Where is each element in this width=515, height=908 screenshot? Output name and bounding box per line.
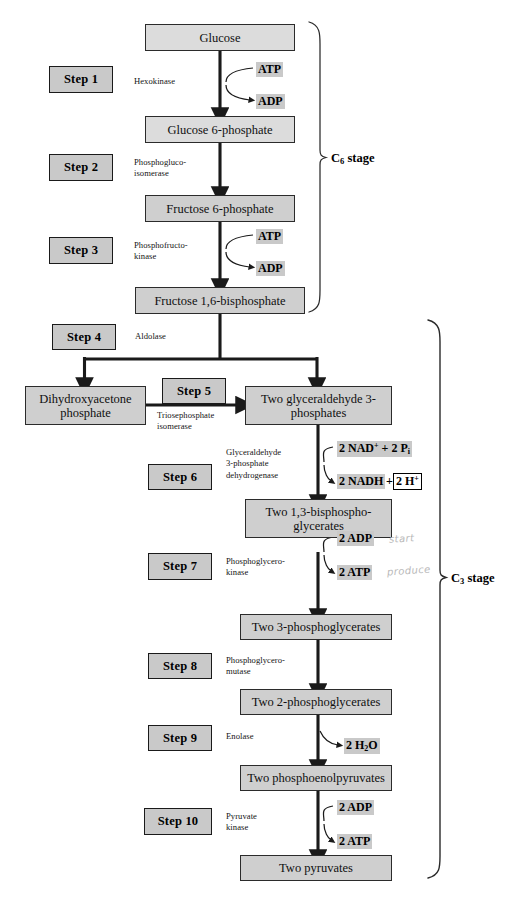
cofactor-proton-charge: + (414, 474, 419, 483)
enzyme-label-enolase: Enolase (226, 731, 254, 742)
cofactor-pi-text: + 2 P (379, 441, 408, 455)
cofactor-adp-step7: 2 ADP (337, 531, 374, 546)
step-label: Step 3 (64, 243, 98, 258)
enzyme-label-aldolase: Aldolase (135, 331, 166, 342)
metabolite-box-pyruvate: Two pyruvates (240, 855, 392, 881)
step-box-3[interactable]: Step 3 (49, 237, 113, 264)
metabolite-box-3-phosphoglycerate: Two 3-phosphoglycerates (240, 614, 392, 640)
handwritten-annotation-start: start (389, 532, 415, 545)
step-box-10[interactable]: Step 10 (144, 808, 212, 835)
enzyme-label-phosphofructokinase: Phosphofructo- kinase (134, 240, 188, 263)
step-box-4[interactable]: Step 4 (52, 324, 116, 350)
metabolite-label: Glucose (200, 31, 241, 45)
cofactor-nad-text: 2 NAD (339, 441, 374, 455)
step-box-7[interactable]: Step 7 (148, 553, 212, 580)
step-box-9[interactable]: Step 9 (148, 725, 212, 751)
cofactor-water-step9: 2 H2O (344, 738, 380, 754)
stage-c3-prefix: C (451, 571, 460, 585)
enzyme-label-gapdh: Glyceraldehyde 3-phosphate dehydrogenase (226, 447, 281, 481)
cofactor-water-text: 2 H (346, 738, 364, 752)
step-label: Step 4 (67, 330, 101, 345)
cofactor-nadh-step6: 2 NADH (337, 474, 385, 489)
step-label: Step 5 (177, 384, 211, 399)
metabolite-box-glucose-6-phosphate: Glucose 6-phosphate (145, 116, 295, 143)
stage-label-c3: C3 stage (451, 571, 494, 586)
metabolite-label: Two pyruvates (279, 861, 353, 875)
metabolite-label: Two 1,3-bisphospho- glycerates (246, 505, 391, 533)
enzyme-label-triosephosphate-isomerase: Triosephosphate isomerase (157, 410, 214, 433)
stage-label-c6: C6 stage (331, 151, 374, 166)
step-label: Step 1 (64, 72, 98, 87)
step-label: Step 7 (163, 559, 197, 574)
cofactor-atp-step3: ATP (256, 229, 283, 244)
step-box-8[interactable]: Step 8 (148, 653, 212, 679)
cofactor-adp-step1: ADP (256, 94, 285, 109)
metabolite-box-phosphoenolpyruvate: Two phosphoenolpyruvates (240, 765, 392, 791)
stage-c6-prefix: C (331, 151, 340, 165)
metabolite-box-glyceraldehyde-3-phosphate: Two glyceraldehyde 3-phosphates (245, 386, 392, 425)
step-label: Step 10 (158, 814, 199, 829)
step-label: Step 8 (163, 659, 197, 674)
handwritten-annotation-produce: produce (387, 563, 431, 577)
enzyme-label-phosphoglucoisomerase: Phosphogluco- isomerase (134, 157, 186, 180)
enzyme-label-pyruvate-kinase: Pyruvate kinase (226, 811, 257, 834)
cofactor-adp-step3: ADP (256, 261, 285, 276)
cofactor-nad-pi-step6: 2 NAD+ + 2 Pi (337, 441, 412, 457)
step-box-2[interactable]: Step 2 (49, 154, 113, 181)
metabolite-label: Dihydroxyacetone phosphate (26, 392, 145, 420)
metabolite-box-2-phosphoglycerate: Two 2-phosphoglycerates (240, 689, 392, 715)
metabolite-label: Glucose 6-phosphate (167, 123, 272, 137)
step-box-6[interactable]: Step 6 (148, 464, 212, 490)
metabolite-box-fructose-1-6-bisphosphate: Fructose 1,6-bisphosphate (135, 287, 305, 314)
enzyme-label-phosphoglyceromutase: Phosphoglycero- mutase (226, 655, 285, 678)
stage-c3-suffix: stage (464, 571, 494, 585)
metabolite-box-glucose: Glucose (145, 24, 295, 51)
cofactor-adp-step10: 2 ADP (337, 800, 374, 815)
step-label: Step 6 (163, 470, 197, 485)
metabolite-label: Fructose 6-phosphate (166, 202, 273, 216)
metabolite-label: Two glyceraldehyde 3-phosphates (246, 392, 391, 420)
cofactor-pi-sub: i (408, 447, 410, 456)
cofactor-proton-step6: 2 H+ (393, 473, 422, 490)
metabolite-label: Two 3-phosphoglycerates (252, 620, 381, 634)
cofactor-atp-step1: ATP (256, 62, 283, 77)
step-label: Step 2 (64, 160, 98, 175)
metabolite-label: Fructose 1,6-bisphosphate (154, 294, 285, 308)
cofactor-water-tail: O (368, 738, 377, 752)
metabolite-label: Two phosphoenolpyruvates (247, 771, 385, 785)
metabolite-box-dihydroxyacetone-phosphate: Dihydroxyacetone phosphate (25, 386, 146, 425)
step-label: Step 9 (163, 731, 197, 746)
stage-c6-suffix: stage (344, 151, 374, 165)
cofactor-atp-step10: 2 ATP (337, 834, 372, 849)
cofactor-proton-text: 2 H (396, 474, 414, 488)
metabolite-label: Two 2-phosphoglycerates (252, 695, 381, 709)
enzyme-label-hexokinase: Hexokinase (134, 76, 175, 87)
metabolite-box-fructose-6-phosphate: Fructose 6-phosphate (145, 195, 295, 222)
step-box-5[interactable]: Step 5 (162, 378, 226, 404)
step-box-1[interactable]: Step 1 (49, 66, 113, 93)
glycolysis-diagram: Glucose Glucose 6-phosphate Fructose 6-p… (0, 0, 515, 908)
enzyme-label-phosphoglycerokinase: Phosphoglycero- kinase (226, 556, 285, 579)
cofactor-atp-step7: 2 ATP (337, 565, 372, 580)
